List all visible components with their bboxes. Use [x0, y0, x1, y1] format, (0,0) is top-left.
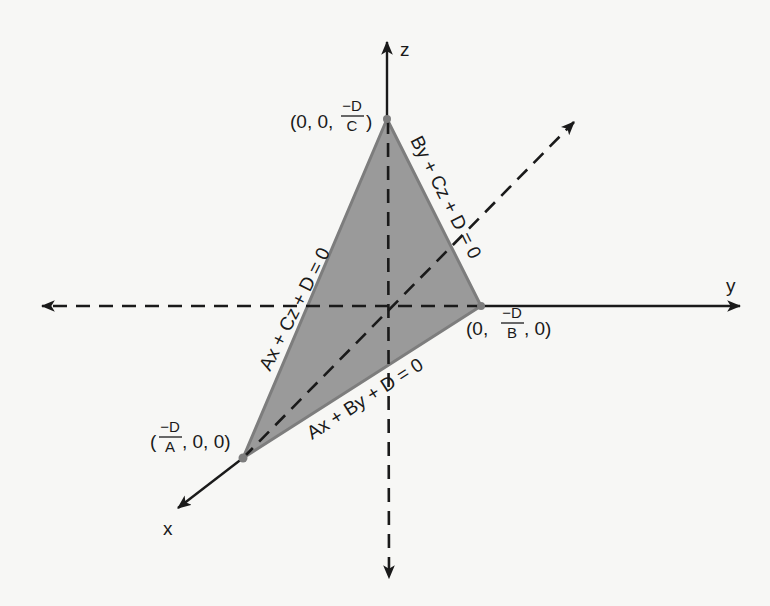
z-intercept-label: (0, 0, −D C ): [290, 97, 372, 134]
x-intercept-point: [239, 454, 248, 463]
z-intercept-prefix: (0, 0,: [290, 111, 333, 132]
x-axis-label: x: [163, 518, 173, 539]
x-axis: [178, 458, 243, 508]
z-intercept-point: [383, 115, 391, 123]
x-intercept-label: ( −D A , 0, 0): [150, 418, 231, 455]
x-intercept-open-paren: (: [150, 431, 157, 452]
x-intercept-rest: , 0, 0): [182, 431, 231, 452]
z-intercept-denominator: C: [347, 117, 358, 134]
y-intercept-denominator: B: [507, 324, 517, 341]
x-intercept-numerator: −D: [160, 418, 180, 435]
z-intercept-numerator: −D: [342, 97, 362, 114]
y-intercept-label: (0, −D B , 0): [466, 304, 551, 341]
plane-intercept-diagram: z y x (0, 0, −D C ) (0, −D B , 0) ( −D A…: [0, 0, 770, 606]
y-intercept-numerator: −D: [502, 304, 522, 321]
z-intercept-suffix: ): [366, 111, 372, 132]
x-intercept-denominator: A: [165, 438, 175, 455]
y-intercept-point: [477, 302, 485, 310]
z-axis-label: z: [400, 39, 410, 60]
y-intercept-prefix: (0,: [466, 318, 488, 339]
diagram-canvas: z y x (0, 0, −D C ) (0, −D B , 0) ( −D A…: [0, 0, 770, 606]
y-intercept-suffix: , 0): [524, 318, 551, 339]
y-axis-label: y: [726, 275, 736, 296]
